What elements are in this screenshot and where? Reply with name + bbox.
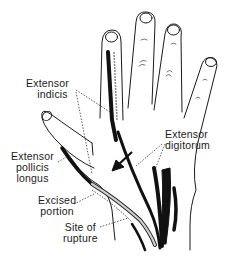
label-extensor-digitorum: Extensor digitorum <box>165 129 210 151</box>
extensor-pollicis-longus-tendon <box>62 148 92 184</box>
extensor-digitorum-tendon-4 <box>174 188 176 230</box>
leader-extensor-indicis-2 <box>76 92 92 174</box>
graft-tendon <box>92 184 155 245</box>
extensor-digitorum-tendon-3 <box>160 168 171 244</box>
hand-ulnar-border <box>190 142 198 250</box>
middle-finger-outline <box>128 12 155 108</box>
leader-epl <box>58 156 68 162</box>
ring-finger-outline <box>154 24 182 112</box>
label-extensor-pollicis-longus: Extensor pollicis longus <box>11 151 54 184</box>
hand-diagram: Extensor indicis Extensor digitorum Exte… <box>0 0 228 265</box>
ruptured-stump <box>132 224 145 250</box>
label-site-of-rupture: Site of rupture <box>63 222 98 244</box>
leader-excised <box>74 194 94 204</box>
extensor-digitorum-tendon-1 <box>118 132 160 248</box>
label-excised-portion: Excised portion <box>38 195 76 217</box>
leader-extensor-indicis-1 <box>76 90 110 112</box>
label-extensor-indicis: Extensor indicis <box>26 78 69 100</box>
leader-extensor-digitorum-1 <box>136 144 162 166</box>
